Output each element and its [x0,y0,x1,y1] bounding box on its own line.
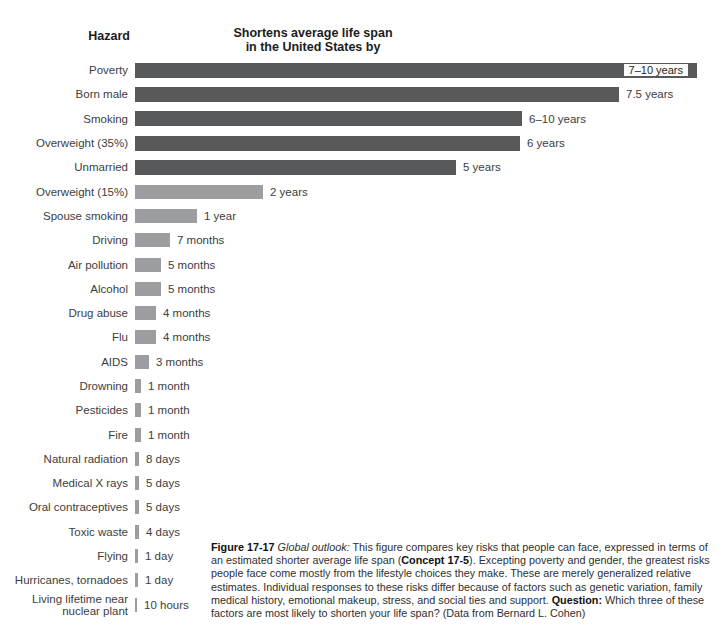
duration-bar [135,258,161,272]
chart-row: Drowning1 month [0,374,724,398]
duration-label: 5 days [146,477,180,489]
figure-17-17-chart: Hazard Shortens average life span in the… [0,0,724,638]
duration-label: 3 months [156,356,203,368]
hazard-label: Living lifetime near nuclear plant [0,593,128,617]
duration-label: 6–10 years [529,113,586,125]
chart-row: Born male7.5 years [0,82,724,106]
duration-bar [135,330,156,344]
duration-label: 2 years [270,186,308,198]
hazard-label: Driving [0,234,128,246]
duration-bar [135,87,619,102]
duration-label: 8 days [146,453,180,465]
duration-bar [135,111,522,126]
hazard-label: Drug abuse [0,307,128,319]
duration-label: 5 months [168,259,215,271]
hazard-label: Hurricanes, tornadoes [0,574,128,586]
hazard-label: Pesticides [0,404,128,416]
duration-label: 5 days [146,501,180,513]
hazard-label: Medical X rays [0,477,128,489]
duration-bar [135,549,138,563]
duration-label: 4 days [146,526,180,538]
hazard-label: Drowning [0,380,128,392]
duration-bar [135,282,161,296]
hazard-label: Fire [0,429,128,441]
hazard-label: Oral contraceptives [0,501,128,513]
duration-label: 1 month [148,429,190,441]
hazard-label: Air pollution [0,259,128,271]
duration-label: 5 months [168,283,215,295]
duration-bar [135,355,149,369]
duration-label: 1 day [145,550,173,562]
chart-row: Medical X rays5 days [0,471,724,495]
duration-bar [135,452,139,466]
duration-label: 6 years [527,137,565,149]
hazard-label: Smoking [0,113,128,125]
duration-bar [135,525,139,539]
hazard-label: Flu [0,331,128,343]
chart-row: Flu4 months [0,325,724,349]
duration-bar [135,403,141,417]
chart-row: Drug abuse4 months [0,301,724,325]
chart-row: Unmarried5 years [0,155,724,179]
chart-row: Smoking6–10 years [0,107,724,131]
hazard-label: Overweight (35%) [0,137,128,149]
duration-label: 10 hours [144,599,189,611]
duration-bar [135,306,156,320]
chart-row: Pesticides1 month [0,398,724,422]
duration-bar [135,428,141,442]
hazard-label: AIDS [0,356,128,368]
chart-row: Spouse smoking1 year [0,204,724,228]
chart-row: Overweight (15%)2 years [0,179,724,203]
hazard-column-header: Hazard [0,29,130,43]
duration-bar: 7–10 years [135,63,697,78]
duration-bar [135,209,197,223]
duration-bar [135,379,141,393]
chart-row: AIDS3 months [0,350,724,374]
duration-label: 4 months [163,331,210,343]
duration-label: 7.5 years [626,88,673,100]
chart-row: Fire1 month [0,422,724,446]
duration-bar [135,233,170,247]
hazard-label: Overweight (15%) [0,186,128,198]
caption-text-segment: Figure 17-17 [211,541,278,553]
duration-bar [135,185,263,199]
duration-label: 4 months [163,307,210,319]
hazard-label: Flying [0,550,128,562]
bar-rows: Poverty7–10 yearsBorn male7.5 yearsSmoki… [0,58,724,617]
chart-row: Driving7 months [0,228,724,252]
hazard-label: Born male [0,88,128,100]
hazard-label: Toxic waste [0,526,128,538]
duration-label: 1 year [204,210,236,222]
duration-label: 1 month [148,380,190,392]
hazard-label: Spouse smoking [0,210,128,222]
duration-bar [135,136,520,151]
duration-bar [135,160,456,175]
caption-text-segment: Global outlook: [278,541,350,553]
figure-caption: Figure 17-17 Global outlook: This figure… [211,541,720,620]
chart-row: Air pollution5 months [0,252,724,276]
chart-row: Oral contraceptives5 days [0,495,724,519]
hazard-label: Natural radiation [0,453,128,465]
chart-row: Poverty7–10 years [0,58,724,82]
chart-row: Overweight (35%)6 years [0,131,724,155]
caption-text-segment: Question: [552,594,602,606]
duration-label: 7–10 years [624,64,688,76]
chart-row: Alcohol5 months [0,277,724,301]
chart-row: Natural radiation8 days [0,447,724,471]
duration-label: 1 day [145,574,173,586]
hazard-label: Poverty [0,64,128,76]
duration-bar [135,500,139,514]
duration-bar [135,598,137,612]
duration-label: 1 month [148,404,190,416]
caption-text-segment: Concept 17-5 [401,554,469,566]
hazard-label: Unmarried [0,161,128,173]
duration-bar [135,573,138,587]
duration-label: 7 months [177,234,224,246]
duration-bar [135,476,139,490]
hazard-label: Alcohol [0,283,128,295]
duration-label: 5 years [463,161,501,173]
chart-title: Shortens average life span in the United… [212,27,414,54]
